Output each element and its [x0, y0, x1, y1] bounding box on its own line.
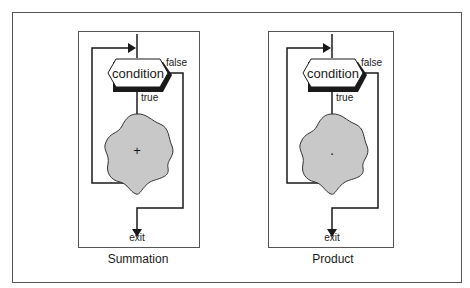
exit-label: exit: [324, 232, 340, 243]
panel-summation: condition false true + exit Summation: [79, 32, 200, 267]
true-label: true: [336, 92, 354, 103]
false-label: false: [361, 57, 383, 68]
false-label: false: [166, 57, 188, 68]
exit-label: exit: [129, 232, 145, 243]
body-symbol: ·: [330, 145, 335, 161]
panel-product: condition false true · exit Product: [269, 32, 394, 267]
true-label: true: [141, 92, 159, 103]
panel-caption: Product: [312, 252, 354, 266]
condition-label: condition: [112, 66, 164, 81]
loop-diagram: condition false true + exit Summation co…: [0, 0, 470, 288]
panel-caption: Summation: [108, 252, 169, 266]
condition-label: condition: [307, 66, 359, 81]
body-symbol: +: [133, 143, 141, 158]
outer-frame: [13, 13, 462, 283]
